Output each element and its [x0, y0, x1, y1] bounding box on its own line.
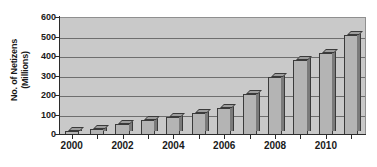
y-axis-tick-mark [55, 115, 59, 116]
bar-chart-figure: No. of Netizens (Millions) 0100200300400… [0, 0, 377, 167]
bar-slot [65, 18, 79, 135]
bar-slot [141, 18, 155, 135]
y-axis-tick-label: 500 [30, 32, 56, 42]
x-axis-line [59, 134, 366, 135]
bar-slot [166, 18, 180, 135]
bar-slot [217, 18, 231, 135]
y-axis-title-line-1: No. of Netizens [9, 39, 20, 101]
bar-side-face [332, 49, 336, 131]
bar-side-face [230, 104, 234, 131]
x-axis-tick-mark [199, 135, 200, 139]
x-axis-tick-mark [224, 135, 225, 139]
bar-side-face [357, 31, 361, 131]
bar[interactable] [166, 117, 180, 135]
x-axis-tick-label: 2000 [61, 140, 83, 151]
y-axis-tick-mark [55, 37, 59, 38]
bar-slot [115, 18, 129, 135]
bar-slot [192, 18, 206, 135]
x-axis-tick-mark [326, 135, 327, 139]
y-axis-tick-mark [55, 95, 59, 96]
bar[interactable] [293, 60, 307, 135]
y-axis-tick-label: 400 [30, 51, 56, 61]
y-axis-tick-mark [55, 76, 59, 77]
bars-layer [60, 18, 365, 135]
bar-slot [243, 18, 257, 135]
x-axis-tick-mark [250, 135, 251, 139]
bar[interactable] [243, 94, 257, 135]
y-axis-tick-label: 200 [30, 90, 56, 100]
x-axis-tick-label: 2002 [111, 140, 133, 151]
bar[interactable] [268, 77, 282, 135]
y-axis-tick-mark [55, 56, 59, 57]
y-axis-tick-mark [55, 17, 59, 18]
x-axis-tick-mark [351, 135, 352, 139]
y-axis-tick-label: 600 [30, 12, 56, 22]
bar-slot [344, 18, 358, 135]
x-axis-tick-label: 2010 [315, 140, 337, 151]
bar-side-face [307, 56, 311, 131]
y-axis-tick-mark [55, 134, 59, 135]
x-axis-tick-labels: 200020022004200620082010 [0, 140, 377, 160]
x-axis-tick-label: 2006 [213, 140, 235, 151]
x-axis-tick-mark [97, 135, 98, 139]
bar[interactable] [192, 113, 206, 135]
y-axis-tick-labels: 0100200300400500600 [30, 12, 56, 136]
bar[interactable] [319, 53, 333, 135]
bar-slot [293, 18, 307, 135]
bar[interactable] [141, 120, 155, 135]
bar-side-face [256, 90, 260, 131]
bar-slot [268, 18, 282, 135]
bar-slot [319, 18, 333, 135]
bar-side-face [281, 73, 285, 131]
x-axis-tick-mark [148, 135, 149, 139]
y-axis-tick-label: 100 [30, 110, 56, 120]
bar[interactable] [217, 108, 231, 135]
x-axis-tick-mark [173, 135, 174, 139]
bar[interactable] [344, 35, 358, 135]
x-axis-tick-mark [275, 135, 276, 139]
y-axis-tick-label: 300 [30, 71, 56, 81]
bar-slot [90, 18, 104, 135]
x-axis-tick-label: 2004 [162, 140, 184, 151]
plot-area [60, 17, 366, 135]
x-axis-tick-mark [72, 135, 73, 139]
x-axis-tick-mark [300, 135, 301, 139]
x-axis-tick-label: 2008 [264, 140, 286, 151]
x-axis-tick-mark [123, 135, 124, 139]
y-axis-tick-label: 0 [30, 129, 56, 139]
